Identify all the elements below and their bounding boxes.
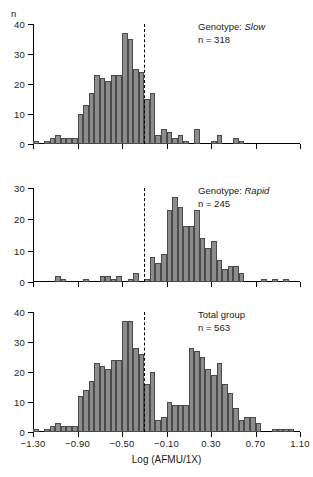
y-tick-label-slow-30: 30 (14, 49, 25, 60)
annotation-genotype-value-rapid: Rapid (244, 185, 269, 196)
x-tick-slow-5 (256, 144, 257, 149)
y-tick-label-total-10: 10 (14, 397, 25, 408)
annotation-genotype-prefix-total: Total group (198, 309, 245, 320)
cutoff-dashed-line-total (144, 312, 145, 432)
x-tick-label-1: −0.90 (65, 438, 90, 449)
x-tick-total-3 (167, 432, 168, 437)
x-tick-rapid-0 (33, 282, 34, 287)
histogram-panel-slow: 010203040nGenotype: Slown = 318 (0, 0, 313, 156)
plot-area-total: 010203040−1.30−0.90−0.50−0.100.300.701.1… (33, 312, 300, 432)
y-tick-label-total-20: 20 (14, 367, 25, 378)
histogram-bar (239, 141, 245, 144)
y-tick-label-rapid-20: 20 (14, 214, 25, 225)
x-tick-label-0: −1.30 (20, 438, 45, 449)
panel-annotation-rapid: Genotype: Rapidn = 245 (198, 185, 269, 211)
x-tick-rapid-5 (256, 282, 257, 287)
x-axis-title: Log (AFMU/1X) (33, 454, 300, 465)
x-tick-slow-0 (33, 144, 34, 149)
histogram-bar (283, 279, 289, 282)
x-tick-rapid-4 (211, 282, 212, 287)
x-tick-label-5: 0.70 (246, 438, 265, 449)
x-tick-label-3: −0.10 (154, 438, 179, 449)
y-tick-label-slow-20: 20 (14, 79, 25, 90)
histogram-bar (133, 273, 139, 282)
annotation-count-slow: n = 318 (198, 34, 265, 47)
histogram-panel-rapid: 0102030Genotype: Rapidn = 245 (0, 156, 313, 290)
x-tick-total-1 (78, 432, 79, 437)
histogram-figure: 010203040nGenotype: Slown = 3180102030Ge… (0, 0, 313, 477)
annotation-count-rapid: n = 245 (198, 198, 269, 211)
y-tick-label-total-40: 40 (14, 307, 25, 318)
x-tick-total-2 (122, 432, 123, 437)
plot-area-slow: 010203040nGenotype: Slown = 318 (33, 24, 300, 144)
histogram-bar (261, 279, 267, 282)
histogram-bar (83, 279, 89, 282)
x-tick-label-6: 1.10 (290, 438, 309, 449)
x-tick-total-5 (256, 432, 257, 437)
histogram-bar (61, 279, 67, 282)
x-tick-rapid-1 (78, 282, 79, 287)
cutoff-dashed-line-slow (144, 24, 145, 144)
annotation-genotype-total: Total group (198, 309, 245, 322)
panel-annotation-total: Total groupn = 563 (198, 309, 245, 335)
plot-area-rapid: 0102030Genotype: Rapidn = 245 (33, 188, 300, 282)
y-axis-name: n (11, 8, 16, 19)
y-tick-label-slow-0: 0 (20, 139, 25, 150)
annotation-genotype-value-slow: Slow (244, 21, 265, 32)
panel-annotation-slow: Genotype: Slown = 318 (198, 21, 265, 47)
histogram-bar (289, 429, 295, 432)
x-tick-label-4: 0.30 (201, 438, 220, 449)
annotation-genotype-slow: Genotype: Slow (198, 21, 265, 34)
y-tick-label-slow-40: 40 (14, 19, 25, 30)
histogram-bar (256, 423, 262, 432)
histogram-bar (217, 135, 223, 144)
bars-total (33, 312, 300, 432)
x-tick-slow-4 (211, 144, 212, 149)
y-tick-label-slow-10: 10 (14, 109, 25, 120)
annotation-genotype-rapid: Genotype: Rapid (198, 185, 269, 198)
y-tick-label-rapid-30: 30 (14, 183, 25, 194)
y-tick-label-rapid-10: 10 (14, 245, 25, 256)
y-tick-label-total-30: 30 (14, 337, 25, 348)
x-tick-slow-6 (300, 144, 301, 149)
x-tick-label-2: −0.50 (109, 438, 134, 449)
cutoff-dashed-line-rapid (144, 188, 145, 282)
x-tick-slow-1 (78, 144, 79, 149)
annotation-genotype-prefix-rapid: Genotype: (198, 185, 244, 196)
histogram-bar (239, 273, 245, 282)
x-tick-slow-3 (167, 144, 168, 149)
x-tick-total-4 (211, 432, 212, 437)
histogram-bar (183, 141, 189, 144)
y-tick-label-total-0: 0 (20, 427, 25, 438)
histogram-bar (194, 129, 200, 144)
y-tick-label-rapid-0: 0 (20, 277, 25, 288)
x-tick-total-6 (300, 432, 301, 437)
histogram-bar (272, 279, 278, 282)
x-tick-rapid-3 (167, 282, 168, 287)
x-tick-total-0 (33, 432, 34, 437)
histogram-panel-total: 010203040−1.30−0.90−0.50−0.100.300.701.1… (0, 290, 313, 445)
annotation-genotype-prefix-slow: Genotype: (198, 21, 244, 32)
x-tick-rapid-2 (122, 282, 123, 287)
x-tick-rapid-6 (300, 282, 301, 287)
x-tick-slow-2 (122, 144, 123, 149)
annotation-count-total: n = 563 (198, 322, 245, 335)
